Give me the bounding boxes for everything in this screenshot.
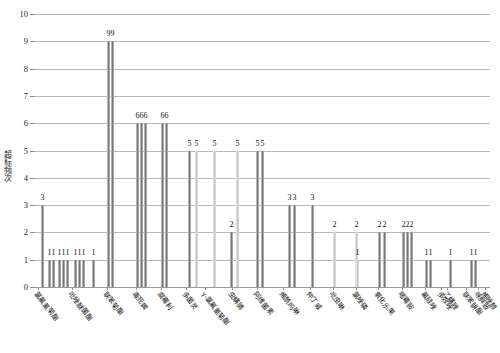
bar	[48, 260, 51, 287]
bar	[383, 232, 386, 287]
x-tick-label: 多菌灵	[180, 291, 198, 311]
bar-value-label: 2	[333, 221, 337, 229]
bar	[66, 260, 69, 287]
x-tick-label: 吡唑醚菌酯	[66, 291, 92, 322]
bar-value-label: 3	[41, 194, 45, 202]
y-tick-label: 3	[6, 201, 28, 210]
gridline	[35, 14, 490, 15]
gridline	[35, 96, 490, 97]
bar	[236, 151, 239, 288]
bar-value-label: 1	[92, 249, 96, 257]
bar-value-label: 2	[383, 221, 387, 229]
y-tick-label: 9	[6, 37, 28, 46]
bar-value-label: 5	[188, 140, 192, 148]
bar-value-label: 1	[449, 249, 453, 257]
bar-value-label: 2	[355, 221, 359, 229]
bar-value-label: 1	[66, 249, 70, 257]
x-tick-mark	[232, 287, 233, 290]
bar	[261, 151, 264, 288]
x-tick-mark	[441, 287, 442, 290]
x-tick-mark	[485, 287, 486, 290]
gridline	[35, 123, 490, 124]
bar	[58, 260, 61, 287]
x-tick-label: 吡虫啉	[327, 291, 345, 311]
x-tick-mark	[136, 287, 137, 290]
x-axis-labels: 氯氟氰菊酯吡唑醚菌酯联苯菊酯毒死蜱腐霉利多菌灵γ-氯氟氰菊酯虫螨腈阿维菌素烯酰吗…	[0, 287, 500, 353]
bar	[256, 151, 259, 288]
x-tick-mark	[447, 287, 448, 290]
x-tick-mark	[161, 287, 162, 290]
bar	[144, 123, 147, 287]
y-tick-label: 10	[6, 10, 28, 19]
bar-value-label: 2	[378, 221, 382, 229]
x-tick-label: 嘧霉胺	[396, 291, 414, 311]
x-tick-label: 毒死蜱	[130, 291, 148, 311]
bar-value-label: 1	[82, 249, 86, 257]
bar	[52, 260, 55, 287]
bar	[161, 123, 164, 287]
x-tick-mark	[333, 287, 334, 290]
bar	[41, 205, 44, 287]
bar	[406, 232, 409, 287]
x-tick-mark	[310, 287, 311, 290]
bar	[288, 205, 291, 287]
x-tick-mark	[38, 287, 39, 290]
bar-value-label: 5	[236, 140, 240, 148]
bar	[82, 260, 85, 287]
bar	[311, 205, 314, 287]
bar	[425, 260, 428, 287]
y-tick-label: 6	[6, 119, 28, 128]
bar-value-label: 1	[52, 249, 56, 257]
bar-chart: 超标频次 012345678910 3111111111996666655555…	[0, 0, 500, 353]
x-tick-label: 氧化乐果	[372, 291, 394, 317]
bar-value-label: 6	[144, 112, 148, 120]
bar-value-label: 5	[261, 140, 265, 148]
bar-value-label: 2	[230, 221, 234, 229]
x-tick-mark	[466, 287, 467, 290]
bar	[402, 232, 405, 287]
x-tick-label: 氯氟氰菊酯	[32, 291, 58, 322]
bar-value-label: 1	[474, 249, 478, 257]
bar-value-label: 1	[429, 249, 433, 257]
bar	[74, 260, 77, 287]
bar-value-label: 1	[356, 249, 360, 257]
bar	[165, 123, 168, 287]
y-tick-label: 5	[6, 147, 28, 156]
bar	[410, 232, 413, 287]
x-tick-mark	[402, 287, 403, 290]
bar	[188, 151, 191, 288]
x-tick-mark	[205, 287, 206, 290]
x-tick-mark	[107, 287, 108, 290]
bar-value-label: 3	[288, 194, 292, 202]
bar-value-label: 3	[311, 194, 315, 202]
bar	[92, 260, 95, 287]
bar	[470, 260, 473, 287]
bar	[293, 205, 296, 287]
x-tick-label: 氯唑磷	[350, 291, 368, 311]
y-tick-label: 8	[6, 65, 28, 74]
bar-value-label: 5	[256, 140, 260, 148]
bar	[356, 260, 359, 287]
x-tick-mark	[356, 287, 357, 290]
bar	[333, 232, 336, 287]
bar-value-label: 5	[213, 140, 217, 148]
x-tick-mark	[378, 287, 379, 290]
bar-value-label: 2	[410, 221, 414, 229]
bar	[474, 260, 477, 287]
plot-area: 3111111111996666655555523332212222211111	[35, 14, 490, 287]
bar	[78, 260, 81, 287]
bar-value-label: 9	[111, 30, 115, 38]
x-tick-label: 腐霉利	[155, 291, 173, 311]
y-tick-label: 2	[6, 228, 28, 237]
bar	[136, 123, 139, 287]
x-tick-mark	[283, 287, 284, 290]
x-tick-label: 烯酰吗啉	[277, 291, 299, 317]
y-tick-label: 4	[6, 174, 28, 183]
y-tick-label: 1	[6, 256, 28, 265]
bar	[429, 260, 432, 287]
bar-value-label: 6	[165, 112, 169, 120]
x-tick-label: 虫螨腈	[226, 291, 244, 311]
x-tick-label: 仲丁威	[304, 291, 322, 311]
gridline	[35, 69, 490, 70]
x-tick-label: 联苯菊酯	[101, 291, 123, 317]
